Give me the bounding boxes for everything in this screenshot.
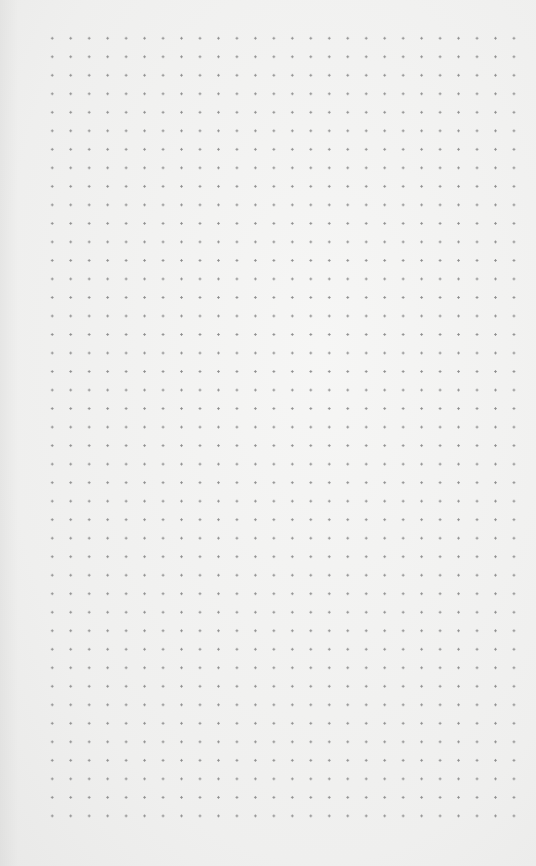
- dot-grid: [43, 29, 528, 829]
- page-edge-shadow: [0, 0, 18, 866]
- dot-grid-paper: [0, 0, 536, 866]
